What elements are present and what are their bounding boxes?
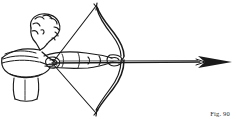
archer-head [31,14,60,50]
figure-caption: Fig. 90 [210,111,230,118]
arrowhead [198,56,232,68]
archer-illustration: Archer drawing a bow with arrow in fligh… [0,0,236,119]
figure-page: Archer drawing a bow with arrow in fligh… [0,0,236,119]
bow [94,3,124,116]
archer-torso [2,49,50,101]
